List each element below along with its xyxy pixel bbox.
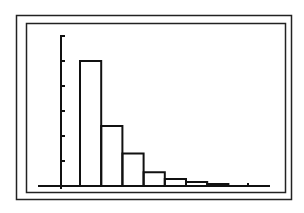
plot-area	[38, 35, 270, 189]
bar	[101, 126, 122, 186]
bar	[80, 61, 101, 186]
bar	[207, 184, 228, 186]
inner-frame	[27, 24, 286, 193]
bar	[186, 182, 207, 186]
bar	[165, 179, 186, 186]
histogram-chart	[0, 0, 304, 213]
bar	[144, 172, 165, 186]
bar	[122, 154, 143, 187]
